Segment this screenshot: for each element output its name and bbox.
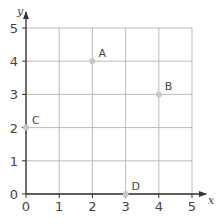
x-axis-arrow-icon	[199, 191, 207, 197]
x-tick-label: 4	[155, 199, 163, 214]
x-tick-label: 3	[121, 199, 129, 214]
point-b-label: B	[165, 80, 173, 93]
point-b-marker	[156, 91, 162, 97]
y-tick-label: 5	[10, 21, 18, 36]
data-points: ABCD	[23, 47, 172, 197]
point-c-label: C	[32, 114, 40, 127]
grid-lines	[26, 28, 192, 194]
point-a-label: A	[98, 47, 106, 60]
x-tick-label: 5	[188, 199, 196, 214]
y-axis-label: y	[16, 5, 24, 18]
point-d-marker	[123, 191, 129, 197]
x-axis-label: x	[208, 194, 215, 207]
point-a-marker	[89, 58, 95, 64]
y-tick-label: 2	[10, 121, 18, 136]
axes	[23, 11, 207, 197]
x-tick-label: 0	[22, 199, 30, 214]
x-tick-label: 1	[55, 199, 63, 214]
point-d-label: D	[132, 180, 140, 193]
point-c-marker	[23, 125, 29, 131]
y-tick-label: 4	[10, 54, 18, 69]
x-tick-label: 2	[88, 199, 96, 214]
y-axis-arrow-icon	[23, 11, 29, 19]
coordinate-grid-chart: 012345012345 ABCD x y	[0, 0, 221, 224]
y-tick-label: 0	[10, 187, 18, 202]
y-tick-label: 3	[10, 87, 18, 102]
y-tick-label: 1	[10, 154, 18, 169]
